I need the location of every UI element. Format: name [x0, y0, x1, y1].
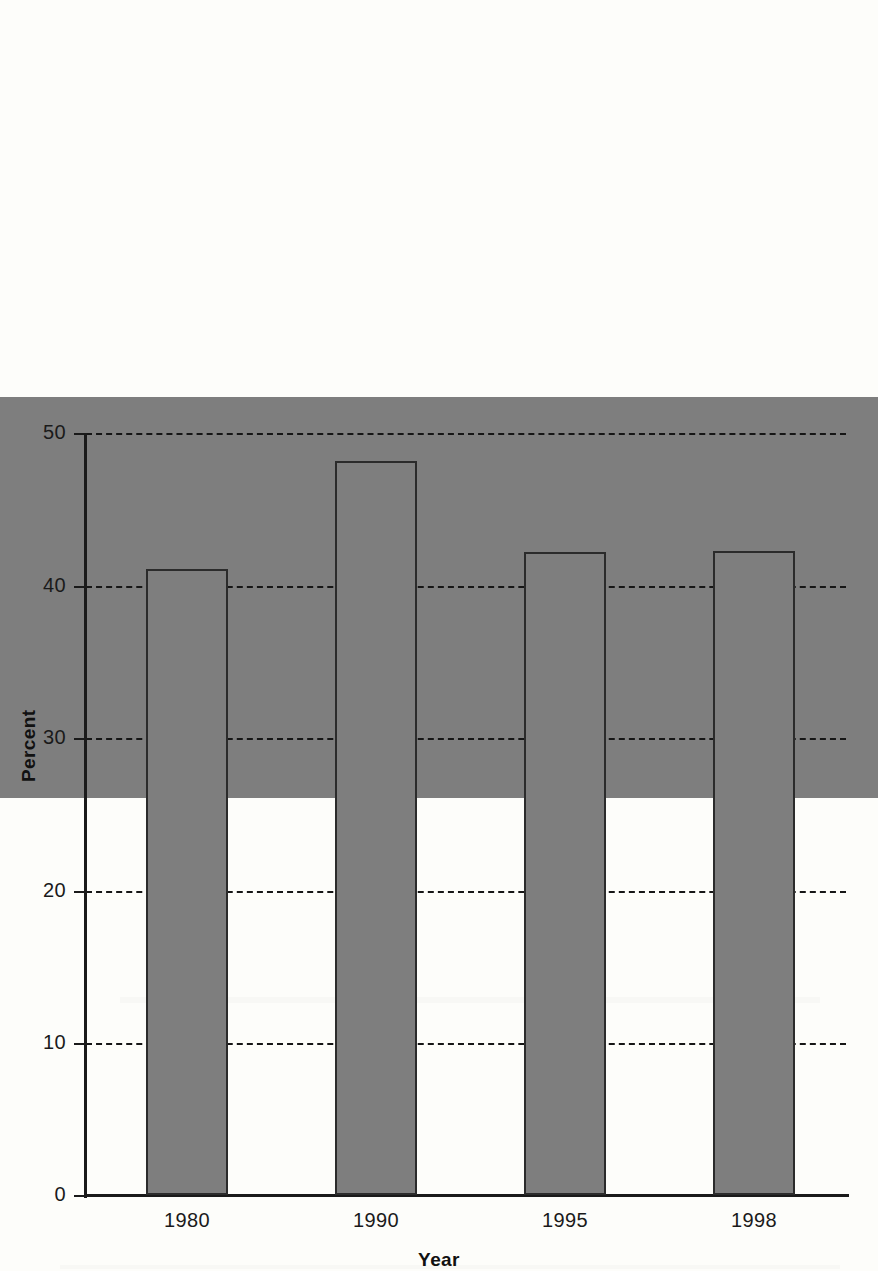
- y-tick-mark-10: [74, 1043, 87, 1045]
- y-tick-label-0: 0: [0, 1183, 66, 1206]
- y-tick-mark-40: [74, 586, 87, 588]
- x-tick-label-1995: 1995: [505, 1209, 625, 1232]
- bar-chart: 50 40 30 20 10 0 1980 1990 1995 1998 Yea…: [0, 397, 878, 798]
- y-tick-label-50: 50: [0, 421, 66, 444]
- x-tick-label-1998: 1998: [694, 1209, 814, 1232]
- x-tick-label-1990: 1990: [316, 1209, 436, 1232]
- gridline-50: [86, 433, 846, 435]
- y-tick-mark-50: [74, 433, 87, 435]
- x-axis-title: Year: [0, 1249, 878, 1271]
- y-tick-label-20: 20: [0, 879, 66, 902]
- y-axis-title: Percent: [18, 710, 40, 783]
- y-tick-mark-0: [74, 1195, 87, 1197]
- y-tick-label-10: 10: [0, 1031, 66, 1054]
- y-tick-mark-30: [74, 738, 87, 740]
- y-tick-label-40: 40: [0, 574, 66, 597]
- bar-1980: [146, 569, 228, 1195]
- bar-1995: [524, 552, 606, 1195]
- bar-1990: [335, 461, 417, 1196]
- y-axis-line: [84, 433, 87, 1198]
- x-tick-label-1980: 1980: [127, 1209, 247, 1232]
- bar-1998: [713, 551, 795, 1195]
- y-tick-mark-20: [74, 891, 87, 893]
